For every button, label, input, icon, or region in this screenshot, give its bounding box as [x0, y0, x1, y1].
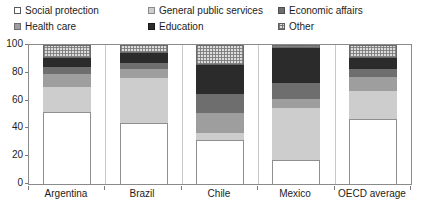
segment-other[interactable] [349, 45, 397, 58]
segment-gps[interactable] [349, 91, 397, 119]
legend-swatch-other [278, 23, 285, 30]
legend-swatch-economic-affairs [278, 7, 285, 14]
x-tick-mark [410, 186, 411, 190]
segment-gps[interactable] [120, 78, 168, 122]
legend-label-general-public-services: General public services [159, 5, 263, 16]
legend-column-3: Economic affairs Other [278, 3, 418, 35]
x-tick-label-chile: Chile [181, 188, 257, 200]
segment-social[interactable] [272, 160, 320, 184]
x-tick-label-brazil: Brazil [104, 188, 180, 200]
legend-swatch-general-public-services [148, 7, 155, 14]
legend-item-other: Other [278, 19, 418, 33]
segment-econ[interactable] [196, 94, 244, 113]
x-tick-label-mexico: Mexico [257, 188, 333, 200]
legend-item-economic-affairs: Economic affairs [278, 3, 418, 17]
segment-social[interactable] [349, 119, 397, 184]
plot-wrapper: 100806040200 ArgentinaBrazilChileMexicoO… [0, 36, 422, 210]
legend-swatch-health-care [14, 23, 21, 30]
segment-other[interactable] [196, 45, 244, 64]
legend-swatch-social-protection [14, 7, 21, 14]
legend-item-education: Education [148, 19, 280, 33]
segment-health[interactable] [43, 74, 91, 87]
segment-health[interactable] [349, 77, 397, 91]
y-tick-label: 80 [12, 67, 23, 77]
category-separator [105, 45, 106, 184]
legend-item-social-protection: Social protection [14, 3, 149, 17]
y-tick-label: 60 [12, 95, 23, 105]
y-tick-label: 20 [12, 150, 23, 160]
legend-label-education: Education [159, 21, 203, 32]
stacked-bar-chart: Social protection Health care General pu… [0, 0, 422, 210]
category-separator [182, 45, 183, 184]
y-tick-label: 40 [12, 122, 23, 132]
bar-mexico[interactable] [272, 45, 320, 184]
segment-edu[interactable] [272, 48, 320, 83]
legend-item-health-care: Health care [14, 19, 149, 33]
legend-label-other: Other [289, 21, 314, 32]
y-tick-label: 0 [17, 178, 23, 188]
category-separator [335, 45, 336, 184]
x-tick-mark [257, 186, 258, 190]
segment-econ[interactable] [272, 83, 320, 100]
segment-gps[interactable] [43, 87, 91, 112]
chart-legend: Social protection Health care General pu… [0, 0, 422, 34]
legend-label-health-care: Health care [25, 21, 76, 32]
segment-health[interactable] [196, 113, 244, 132]
bar-chile[interactable] [196, 45, 244, 184]
segment-edu[interactable] [349, 58, 397, 69]
segment-other[interactable] [43, 45, 91, 58]
bar-oecd-average[interactable] [349, 45, 397, 184]
y-tick-label: 100 [6, 39, 23, 49]
x-axis: ArgentinaBrazilChileMexicoOECD average [28, 186, 412, 206]
segment-health[interactable] [120, 69, 168, 79]
bar-brazil[interactable] [120, 45, 168, 184]
category-separator [258, 45, 259, 184]
legend-item-general-public-services: General public services [148, 3, 280, 17]
legend-column-1: Social protection Health care [14, 3, 149, 35]
segment-social[interactable] [120, 123, 168, 184]
legend-column-2: General public services Education [148, 3, 280, 35]
segment-gps[interactable] [196, 133, 244, 140]
segment-health[interactable] [272, 99, 320, 107]
x-tick-mark [334, 186, 335, 190]
segment-econ[interactable] [349, 69, 397, 77]
x-tick-mark [28, 186, 29, 190]
legend-label-economic-affairs: Economic affairs [289, 5, 363, 16]
segment-social[interactable] [196, 140, 244, 184]
x-tick-label-argentina: Argentina [28, 188, 104, 200]
x-tick-mark [104, 186, 105, 190]
segment-edu[interactable] [196, 65, 244, 94]
y-axis: 100806040200 [0, 36, 27, 191]
legend-label-social-protection: Social protection [25, 5, 99, 16]
x-tick-label-oecd-average: OECD average [334, 188, 410, 200]
x-tick-mark [181, 186, 182, 190]
segment-other[interactable] [120, 45, 168, 53]
segment-gps[interactable] [272, 108, 320, 161]
segment-edu[interactable] [43, 58, 91, 68]
legend-swatch-education [148, 23, 155, 30]
bar-argentina[interactable] [43, 45, 91, 184]
segment-edu[interactable] [120, 53, 168, 63]
segment-social[interactable] [43, 112, 91, 184]
plot-area [28, 44, 412, 185]
segment-econ[interactable] [43, 67, 91, 74]
